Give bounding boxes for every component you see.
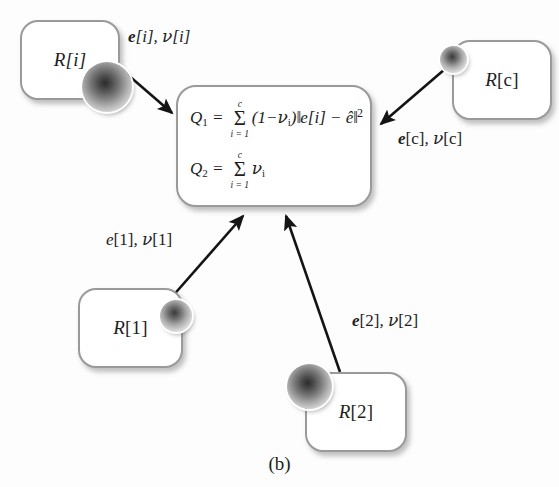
node-R-c[interactable]: R[c] [452,40,552,120]
edge-label-c: e[c], ν[c] [398,130,462,147]
edge-label-2: e[2], ν[2] [352,312,418,329]
arrow-R2-to-center [286,216,340,372]
state-marker-R-c [440,46,467,73]
figure-diagram-b: R[i] R[c] R[1] R[2] Q1 = c Σ i = 1 (1−νi [0,0,559,487]
state-marker-R-1 [160,300,192,332]
state-marker-R-i [82,62,132,112]
formula-q1: Q1 = c Σ i = 1 (1−νi)‖e[i] − ê‖2 [190,107,363,128]
state-marker-R-2 [287,364,332,409]
objective-functions-box[interactable]: Q1 = c Σ i = 1 (1−νi)‖e[i] − ê‖2 Q2 = c … [176,85,372,207]
summation-q2: c Σ i = 1 [228,161,252,178]
edge-label-1: e[1], ν[1] [106,231,172,248]
figure-caption: (b) [0,453,559,475]
summation-q1: c Σ i = 1 [228,110,252,127]
formula-q2: Q2 = c Σ i = 1 νi [190,160,265,179]
edge-label-i: e[i], ν[i] [128,28,190,45]
arrow-Rc-to-center [381,63,452,124]
node-R-c-label: R[c] [454,69,550,91]
